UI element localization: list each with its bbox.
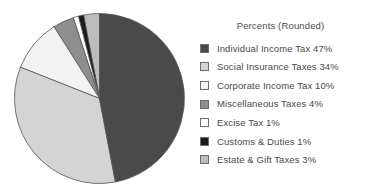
pie-slice-individual-income-tax[interactable] [100, 14, 185, 182]
legend-label-individual-income-tax: Individual Income Tax 47% [217, 44, 332, 54]
legend-item-social-insurance-taxes[interactable]: Social Insurance Taxes 34% [200, 58, 365, 77]
legend-swatch-estate-and-gift-taxes [200, 155, 209, 164]
legend-item-corporate-income-tax[interactable]: Corporate Income Tax 10% [200, 76, 365, 95]
legend-item-customs-and-duties[interactable]: Customs & Duties 1% [200, 132, 365, 151]
legend-label-social-insurance-taxes: Social Insurance Taxes 34% [217, 62, 339, 72]
pie-slice-group [15, 14, 185, 184]
legend-list: Individual Income Tax 47%Social Insuranc… [200, 39, 365, 169]
pie-chart-svg [13, 12, 186, 185]
legend-swatch-customs-and-duties [200, 137, 209, 146]
legend-label-excise-tax: Excise Tax 1% [217, 118, 280, 128]
legend-swatch-miscellaneous-taxes [200, 100, 209, 109]
legend-item-estate-and-gift-taxes[interactable]: Estate & Gift Taxes 3% [200, 151, 365, 170]
legend-title: Percents (Rounded) [200, 20, 365, 31]
legend-item-miscellaneous-taxes[interactable]: Miscellaneous Taxes 4% [200, 95, 365, 114]
legend-label-miscellaneous-taxes: Miscellaneous Taxes 4% [217, 99, 323, 109]
legend-label-estate-and-gift-taxes: Estate & Gift Taxes 3% [217, 155, 316, 165]
legend-swatch-social-insurance-taxes [200, 62, 209, 71]
legend-item-individual-income-tax[interactable]: Individual Income Tax 47% [200, 39, 365, 58]
legend: Percents (Rounded) Individual Income Tax… [200, 20, 365, 169]
legend-swatch-corporate-income-tax [200, 81, 209, 90]
legend-swatch-individual-income-tax [200, 44, 209, 53]
chart-root: Percents (Rounded) Individual Income Tax… [0, 0, 365, 194]
legend-item-excise-tax[interactable]: Excise Tax 1% [200, 113, 365, 132]
legend-label-customs-and-duties: Customs & Duties 1% [217, 137, 311, 147]
legend-label-corporate-income-tax: Corporate Income Tax 10% [217, 81, 334, 91]
pie-chart [13, 12, 186, 185]
legend-swatch-excise-tax [200, 118, 209, 127]
